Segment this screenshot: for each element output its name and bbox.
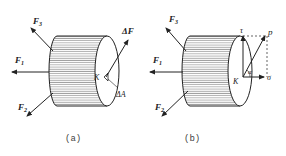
force-f3-label: F3 xyxy=(32,16,42,27)
caption-a: (a) xyxy=(65,134,81,144)
force-f1-label: F1 xyxy=(152,55,162,66)
total-stress-label: p xyxy=(267,27,273,37)
force-f2-label: F2 xyxy=(17,102,27,113)
force-f3-arrow xyxy=(166,28,186,51)
stress-diagram: F3 F1 F2 ΔF K ΔA (a) F3 F1 F2 τ p σ xyxy=(0,0,286,156)
force-f3-arrow xyxy=(31,28,53,51)
delta-f-label: ΔF xyxy=(121,26,134,36)
delta-a-label: ΔA xyxy=(115,90,126,99)
force-f2-arrow xyxy=(162,91,188,116)
point-k-label: K xyxy=(93,73,100,82)
angle-label: α xyxy=(248,68,252,76)
figure-a: F3 F1 F2 ΔF K ΔA (a) xyxy=(12,16,134,144)
point-k-label: K xyxy=(232,77,239,86)
force-f1-label: F1 xyxy=(14,55,24,66)
shear-stress-label: τ xyxy=(240,26,244,35)
normal-stress-label: σ xyxy=(267,73,272,82)
force-f3-label: F3 xyxy=(168,14,178,25)
force-f2-arrow xyxy=(27,93,53,116)
caption-b: (b) xyxy=(184,134,200,144)
figure-b: F3 F1 F2 τ p σ α K (b) xyxy=(150,14,273,144)
force-f2-label: F2 xyxy=(154,102,164,113)
